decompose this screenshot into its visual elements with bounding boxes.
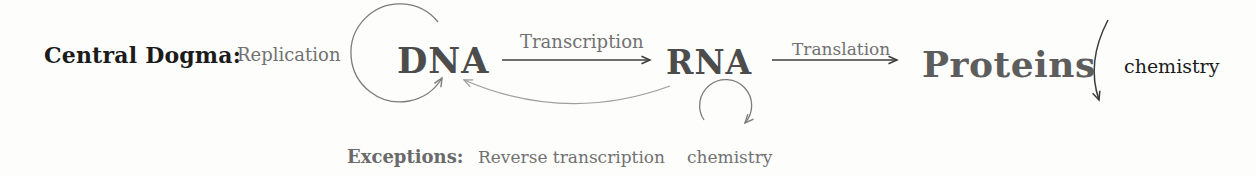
reverse-transcription-arrow (464, 80, 670, 104)
proteins-chemistry-label: chemistry (1124, 57, 1219, 76)
proteins-node-label: Proteins (922, 46, 1096, 82)
dna-node-label: DNA (397, 43, 490, 78)
proteins-chemistry-arrow (1094, 20, 1108, 100)
central-dogma-heading: Central Dogma: (44, 44, 241, 66)
reverse-transcription-label: Reverse transcription (478, 149, 665, 166)
replication-label: Replication (237, 46, 340, 64)
translation-label: Translation (792, 41, 890, 58)
central-dogma-diagram: Central Dogma: Replication DNA Transcrip… (0, 0, 1256, 176)
exceptions-heading: Exceptions: (347, 148, 463, 166)
transcription-label: Transcription (520, 33, 644, 51)
rna-chemistry-loop-arrow (700, 80, 752, 123)
rna-node-label: RNA (666, 46, 752, 79)
rna-chemistry-label: chemistry (687, 149, 772, 166)
